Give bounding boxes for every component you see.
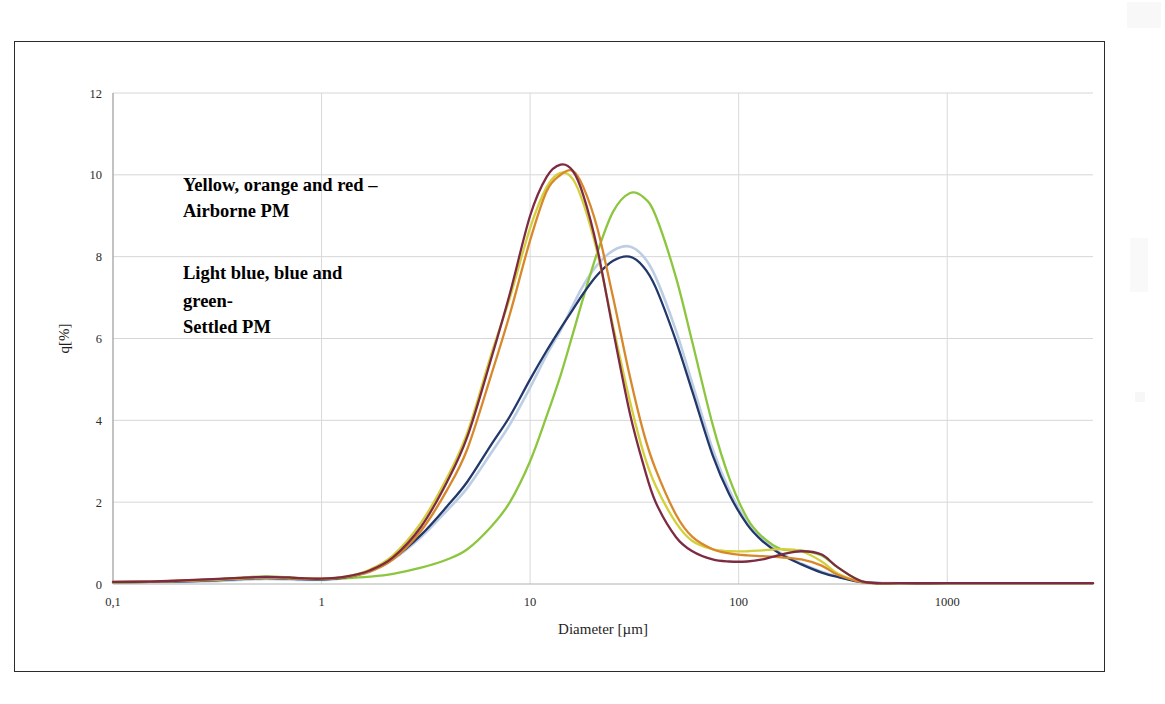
annotation-settled-line-3: Settled PM: [183, 317, 271, 337]
series-line-settled-pm-blue: [113, 256, 1093, 583]
scan-artifact: [1130, 238, 1148, 292]
annotation-settled-line-2: green-: [183, 291, 233, 311]
x-axis-title: Diameter [µm]: [558, 621, 648, 637]
particle-size-distribution-chart: 0246810120,11101001000Diameter [µm]q[%]Y…: [15, 42, 1103, 670]
y-tick-label-0: 0: [96, 578, 102, 592]
scan-artifact: [1127, 2, 1161, 28]
x-tick-label-100: 100: [729, 595, 748, 609]
y-tick-label-4: 4: [96, 414, 103, 428]
x-tick-label-10: 10: [524, 595, 537, 609]
y-tick-label-2: 2: [96, 496, 102, 510]
figure-border: 0246810120,11101001000Diameter [µm]q[%]Y…: [14, 41, 1105, 672]
x-tick-label-1000: 1000: [935, 595, 960, 609]
y-tick-label-12: 12: [90, 87, 103, 101]
y-tick-label-6: 6: [96, 332, 102, 346]
chart-canvas: 0246810120,11101001000Diameter [µm]q[%]Y…: [15, 42, 1104, 671]
series-line-airborne-pm-red: [113, 164, 1093, 583]
scan-artifact: [1135, 392, 1145, 402]
x-tick-label-0,1: 0,1: [105, 595, 121, 609]
y-tick-label-8: 8: [96, 250, 102, 264]
annotation-airborne-line-2: Airborne PM: [183, 201, 289, 221]
series-line-settled-pm-light-blue: [113, 246, 1093, 583]
x-tick-label-1: 1: [318, 595, 324, 609]
y-axis-title: q[%]: [56, 324, 72, 354]
y-tick-label-10: 10: [90, 168, 103, 182]
annotation-airborne-line-1: Yellow, orange and red –: [183, 175, 378, 195]
annotation-settled-line-1: Light blue, blue and: [183, 263, 343, 283]
series-line-airborne-pm-orange: [113, 170, 1093, 583]
